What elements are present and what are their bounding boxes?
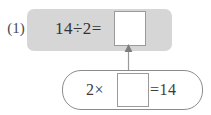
worksheet-problem-canvas: (1) 14÷2= 2× =14 — [0, 0, 211, 115]
arrow-head — [125, 44, 133, 52]
hint-result-text: =14 — [150, 77, 177, 103]
division-equation-text: 14÷2= — [55, 15, 102, 43]
hint-answer-box[interactable] — [117, 73, 149, 107]
hint-multiplier-text: 2× — [86, 77, 104, 103]
problem-number-label: (1) — [3, 17, 29, 39]
